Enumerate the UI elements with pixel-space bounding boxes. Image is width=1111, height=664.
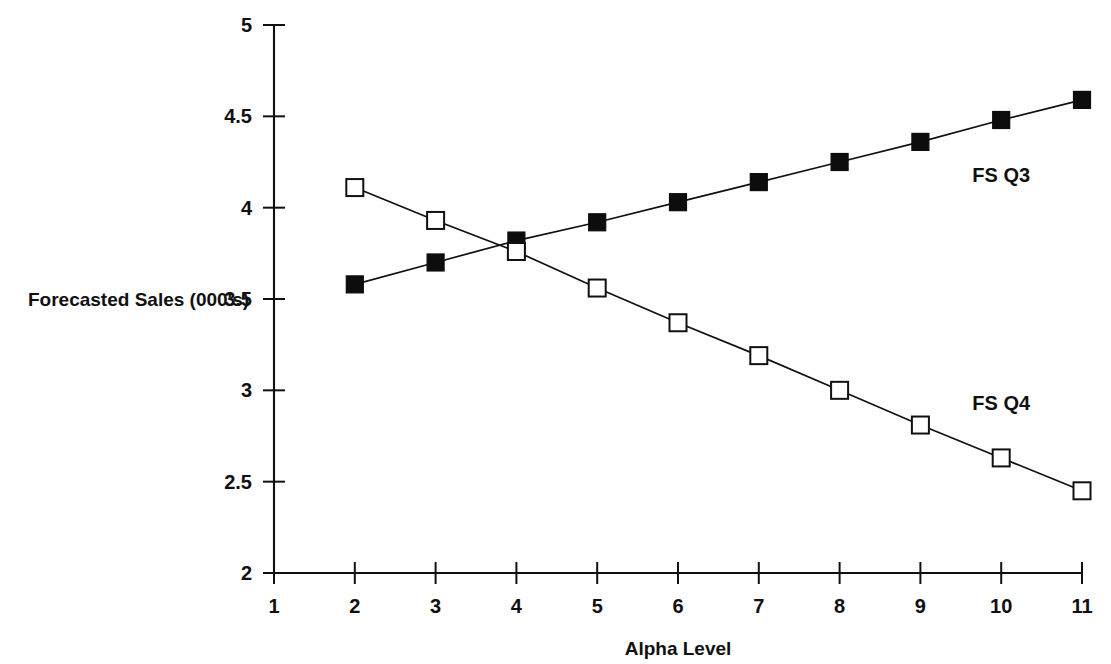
x-axis-title: Alpha Level <box>625 638 732 659</box>
x-tick-label: 8 <box>834 595 845 617</box>
x-tick-label: 7 <box>753 595 764 617</box>
data-point-marker <box>993 449 1010 466</box>
x-tick-label: 2 <box>349 595 360 617</box>
data-point-marker <box>427 212 444 229</box>
data-point-marker <box>750 347 767 364</box>
y-axis-title: Forecasted Sales (000's) <box>28 289 249 310</box>
x-tick-label: 6 <box>672 595 683 617</box>
series-2 <box>346 179 1090 499</box>
series-label-fs-q3: FS Q3 <box>972 164 1030 186</box>
data-point-marker <box>670 314 687 331</box>
x-tick-label: 4 <box>511 595 523 617</box>
y-tick-label: 4 <box>241 197 253 219</box>
x-tick-label: 11 <box>1071 595 1092 617</box>
data-point-marker <box>589 280 606 297</box>
x-tick-labels: 1234567891011 <box>268 595 1092 617</box>
line-chart: 22.533.544.55 1234567891011 FS Q3FS Q4 A… <box>0 0 1111 664</box>
data-point-marker <box>427 254 444 271</box>
series-layer <box>346 91 1090 499</box>
data-point-marker <box>346 179 363 196</box>
data-point-marker <box>346 276 363 293</box>
x-tick-label: 10 <box>990 595 1012 617</box>
y-tick-label: 2.5 <box>224 471 252 493</box>
data-point-marker <box>912 133 929 150</box>
data-point-marker <box>589 214 606 231</box>
y-tick-label: 2 <box>241 562 252 584</box>
chart-page: 22.533.544.55 1234567891011 FS Q3FS Q4 A… <box>0 0 1111 664</box>
series-1 <box>346 91 1090 293</box>
y-tick-label: 4.5 <box>224 105 252 127</box>
x-tick-label: 3 <box>430 595 441 617</box>
data-point-marker <box>831 154 848 171</box>
data-point-marker <box>1074 482 1091 499</box>
y-tick-label: 5 <box>241 14 252 36</box>
x-tick-label: 9 <box>915 595 926 617</box>
series-label-fs-q4: FS Q4 <box>972 392 1031 414</box>
data-point-marker <box>508 243 525 260</box>
x-tick-label: 1 <box>268 595 279 617</box>
data-point-marker <box>912 417 929 434</box>
series-line <box>355 188 1082 491</box>
data-point-marker <box>831 382 848 399</box>
data-point-marker <box>670 194 687 211</box>
series-line <box>355 100 1082 285</box>
data-point-marker <box>750 174 767 191</box>
series-labels: FS Q3FS Q4 <box>972 164 1031 414</box>
data-point-marker <box>1074 91 1091 108</box>
x-axis-group: 1234567891011 <box>268 562 1092 617</box>
x-tick-label: 5 <box>592 595 603 617</box>
data-point-marker <box>993 111 1010 128</box>
y-tick-label: 3 <box>241 379 252 401</box>
